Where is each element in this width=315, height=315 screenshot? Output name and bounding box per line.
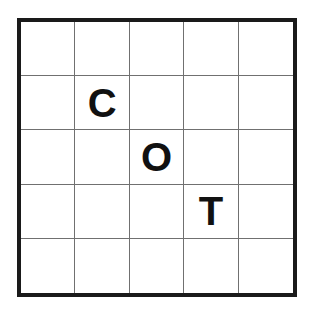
grid-cell-r3-c2[interactable] <box>75 130 129 184</box>
grid-cell-r5-c5[interactable] <box>239 239 293 293</box>
grid-cell-r5-c2[interactable] <box>75 239 129 293</box>
grid-cell-r4-c2[interactable] <box>75 185 129 239</box>
grid-cell-r2-c3[interactable] <box>130 76 184 130</box>
grid-cell-r1-c2[interactable] <box>75 22 129 76</box>
grid-cell-r3-c5[interactable] <box>239 130 293 184</box>
grid-cell-r2-c4[interactable] <box>184 76 238 130</box>
grid-cell-r1-c4[interactable] <box>184 22 238 76</box>
grid-cell-r1-c3[interactable] <box>130 22 184 76</box>
grid-cell-r5-c1[interactable] <box>21 239 75 293</box>
grid-cell-r4-c4[interactable]: T <box>184 185 238 239</box>
grid-cell-r4-c5[interactable] <box>239 185 293 239</box>
grid-cell-r3-c1[interactable] <box>21 130 75 184</box>
grid-cell-r5-c4[interactable] <box>184 239 238 293</box>
puzzle-grid: C O T <box>17 18 297 297</box>
grid-cell-r1-c1[interactable] <box>21 22 75 76</box>
grid-cell-r2-c1[interactable] <box>21 76 75 130</box>
grid-cell-r4-c1[interactable] <box>21 185 75 239</box>
grid-cell-r1-c5[interactable] <box>239 22 293 76</box>
grid-cell-r4-c3[interactable] <box>130 185 184 239</box>
grid-cell-r3-c4[interactable] <box>184 130 238 184</box>
grid-cell-r5-c3[interactable] <box>130 239 184 293</box>
grid-cell-r2-c2[interactable]: C <box>75 76 129 130</box>
grid-cell-r3-c3[interactable]: O <box>130 130 184 184</box>
grid-cell-r2-c5[interactable] <box>239 76 293 130</box>
